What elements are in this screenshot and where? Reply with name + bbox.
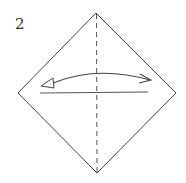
vertical-valley-crease — [97, 14, 98, 172]
hollow-arrowhead-icon — [41, 78, 54, 88]
origami-diagram — [0, 0, 186, 183]
fold-arrow-arc — [53, 73, 150, 83]
horizontal-line — [40, 92, 148, 93]
